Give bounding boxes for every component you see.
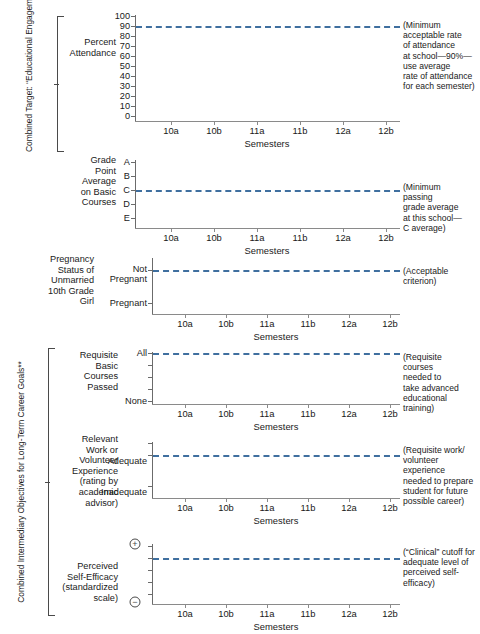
figure-root: Combined Target: “Educational Engagement…: [0, 0, 480, 634]
x-tick-label: 12a: [335, 232, 351, 243]
x-axis-title: Semesters: [254, 515, 299, 526]
annotation-grade-point-average: (Minimum passing grade average at this s…: [403, 182, 480, 233]
chart-work-volunteer-experience: Adequate Inadequate 10a 10b 11a 11b 12a …: [152, 442, 400, 498]
x-axis: [152, 604, 400, 605]
x-tick-label: 12a: [341, 408, 357, 419]
x-tick-label: 11a: [250, 125, 265, 136]
y-tick-label: 40: [120, 71, 130, 81]
x-tick-label: 10a: [177, 408, 193, 419]
y-tick-label: 0: [125, 111, 130, 121]
x-axis: [152, 498, 400, 499]
x-axis-title: Semesters: [245, 138, 290, 149]
x-tick-label: 11a: [250, 232, 265, 243]
x-tick-label: 10b: [218, 608, 234, 619]
x-tick-label: 10b: [218, 318, 234, 329]
y-tick: [131, 16, 135, 17]
y-tick-label: C: [123, 185, 130, 195]
y-axis: [135, 15, 136, 121]
y-tick: [131, 162, 135, 163]
y-tick: [131, 190, 135, 191]
y-tick: [131, 176, 135, 177]
x-tick-label: 12b: [378, 125, 394, 136]
x-tick-label: 10b: [218, 408, 234, 419]
criterion-line: [153, 353, 400, 355]
y-tick-label: D: [123, 199, 130, 209]
x-axis: [152, 314, 400, 315]
criterion-line: [153, 558, 400, 560]
row-label-work-volunteer-experience: Relevant Work or Volunteer Experience (r…: [53, 434, 118, 508]
x-axis: [152, 404, 400, 405]
y-tick: [131, 76, 135, 77]
y-tick-label: All: [137, 348, 147, 358]
y-tick-label: 30: [120, 81, 130, 91]
y-tick: [148, 353, 152, 354]
y-tick: [148, 270, 152, 271]
x-tick-label: 12b: [382, 502, 398, 513]
y-tick-label: 90: [120, 21, 130, 31]
x-tick-label: 12a: [341, 318, 357, 329]
y-axis: [152, 544, 153, 604]
x-axis-title: Semesters: [254, 421, 299, 432]
chart-pregnancy-status: Not Pregnant Pregnant 10a 10b 11a 11b 12…: [152, 258, 400, 314]
x-axis-title: Semesters: [245, 245, 290, 256]
chart-percent-attendance: 100 90 80 70 60 50 40 30 20 10 0 10a 10b…: [135, 15, 400, 121]
x-tick-label: 10a: [177, 608, 193, 619]
group-label-educational-engagement: Combined Target: “Educational Engagement…: [24, 16, 34, 152]
criterion-line: [136, 26, 400, 28]
chart-grade-point-average: A B C D E 10a 10b 11a 11b 12a 12b Semest…: [135, 160, 400, 228]
y-tick-label: 80: [120, 31, 130, 41]
y-tick-label: None: [125, 396, 147, 406]
x-tick-label: 12b: [382, 608, 398, 619]
y-tick: [131, 46, 135, 47]
x-tick-label: 12a: [335, 125, 351, 136]
y-tick-label: 50: [120, 61, 130, 71]
x-tick-label: 10b: [206, 232, 222, 243]
x-tick-label: 12b: [378, 232, 394, 243]
y-tick-label: 60: [120, 51, 130, 61]
x-tick-label: 11b: [301, 318, 316, 329]
row-label-requisite-basic-courses: Requisite Basic Courses Passed: [58, 350, 118, 392]
criterion-line: [153, 455, 400, 457]
y-tick: [131, 116, 135, 117]
y-tick: [131, 26, 135, 27]
x-tick-label: 11a: [260, 408, 275, 419]
y-tick: [131, 106, 135, 107]
annotation-requisite-basic-courses: (Requisite courses needed to take advanc…: [403, 352, 480, 413]
y-axis: [152, 258, 153, 314]
x-tick-label: 11b: [301, 408, 316, 419]
group-bracket-nub: [45, 482, 50, 483]
y-tick-label: 100: [115, 11, 130, 21]
x-tick-label: 10b: [218, 502, 234, 513]
y-tick: [131, 36, 135, 37]
row-label-perceived-self-efficacy: Perceived Self-Efficacy (standardized sc…: [36, 561, 118, 603]
group-bracket-nub: [54, 84, 59, 85]
y-tick: [148, 389, 152, 390]
y-tick-label: A: [124, 157, 130, 167]
y-tick: [131, 86, 135, 87]
plus-glyph: +: [132, 538, 137, 548]
x-tick-label: 12a: [341, 608, 357, 619]
x-tick-label: 10a: [177, 318, 193, 329]
x-tick-label: 11a: [260, 318, 275, 329]
y-tick: [131, 204, 135, 205]
y-axis: [152, 442, 153, 498]
row-label-grade-point-average: Grade Point Average on Basic Courses: [60, 155, 116, 208]
y-axis: [135, 160, 136, 228]
y-tick-label: 10: [120, 101, 130, 111]
y-tick-label: B: [124, 171, 130, 181]
annotation-work-volunteer-experience: (Requisite work/ volunteer experience ne…: [403, 445, 480, 506]
x-tick-label: 11b: [301, 608, 316, 619]
x-tick-label: 12a: [341, 502, 357, 513]
x-tick-label: 11b: [293, 125, 308, 136]
x-tick-label: 10a: [163, 125, 179, 136]
y-tick: [148, 582, 152, 583]
y-tick-label: Adequate: [108, 456, 147, 466]
x-tick-label: 10a: [163, 232, 179, 243]
minus-circle-icon: −: [130, 597, 141, 608]
y-tick: [148, 365, 152, 366]
y-tick: [148, 594, 152, 595]
annotation-perceived-self-efficacy: (“Clinical” cutoff for adequate level of…: [403, 547, 480, 588]
y-tick: [148, 401, 152, 402]
y-tick: [131, 218, 135, 219]
x-tick-label: 10b: [206, 125, 222, 136]
